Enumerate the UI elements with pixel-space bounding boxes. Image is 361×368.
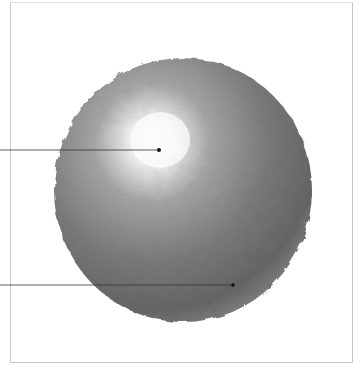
sphere-illustration bbox=[0, 0, 361, 368]
sphere-highlight bbox=[130, 112, 190, 168]
sphere-body bbox=[54, 58, 312, 322]
highlight-dot bbox=[157, 148, 161, 152]
shadow-dot bbox=[231, 283, 235, 287]
